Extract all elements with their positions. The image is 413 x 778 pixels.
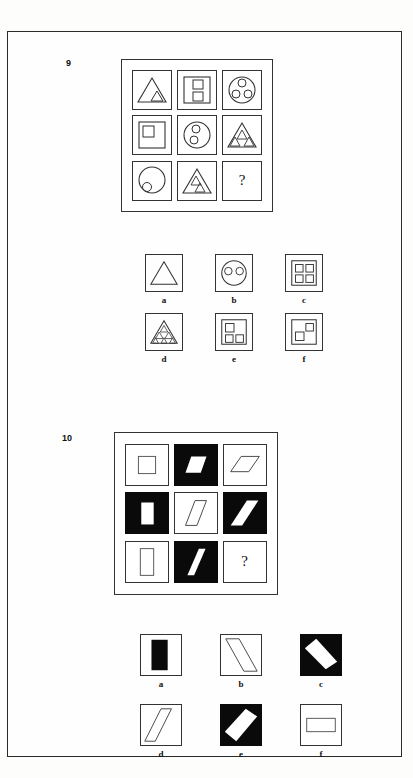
question-mark: ? (241, 553, 248, 570)
matrix-cell-2-1[interactable] (124, 490, 171, 536)
matrix-cell-1-3[interactable] (221, 442, 268, 488)
matrix-cell-3-1[interactable] (131, 160, 173, 202)
square-2-squares-icon (288, 316, 320, 348)
white-diagonal-band-icon (221, 704, 261, 746)
option-f[interactable]: f (269, 313, 339, 364)
puzzle-number: 10 (62, 433, 72, 443)
option-f[interactable]: f (281, 704, 361, 759)
matrix-cell-3-2[interactable] (173, 539, 220, 585)
triangle-many-triangles-icon (148, 316, 180, 348)
option-f-label: f (303, 354, 306, 364)
white-diagonal-parallelogram-icon (224, 492, 266, 534)
circle-with-1-circle-icon (135, 164, 169, 198)
white-parallelogram-icon (175, 444, 217, 486)
option-d[interactable]: d (121, 704, 201, 759)
option-f-label: f (320, 749, 323, 759)
puzzle-10-matrix: ? (114, 432, 278, 595)
diagonal-band-outline-icon (221, 634, 261, 676)
option-b-label: b (238, 679, 243, 689)
matrix-cell-2-2[interactable] (173, 490, 220, 536)
flat-parallelogram-outline-icon (224, 444, 266, 486)
triangle-with-2-triangles-icon (180, 164, 214, 198)
matrix-cell-1-3[interactable] (221, 69, 263, 111)
option-b[interactable]: b (201, 634, 281, 689)
circle-2-circles-icon (218, 257, 250, 289)
option-c[interactable]: c (281, 634, 361, 689)
matrix-cell-2-3[interactable] (221, 114, 263, 156)
triangle-with-3-triangles-icon (225, 118, 259, 152)
square-4-squares-icon (288, 257, 320, 289)
puzzle-9-options-row-1: a b (129, 254, 339, 305)
option-e-label: e (239, 749, 243, 759)
option-e[interactable]: e (199, 313, 269, 364)
question-mark: ? (239, 172, 246, 189)
option-a-label: a (159, 679, 164, 689)
option-a[interactable]: a (129, 254, 199, 305)
option-d-label: d (158, 749, 163, 759)
puzzle-10-options-row-2: d e f (121, 704, 361, 759)
matrix-cell-2-3[interactable] (221, 490, 268, 536)
option-d[interactable]: d (129, 313, 199, 364)
square-with-2-squares-icon (180, 73, 214, 107)
matrix-cell-3-2[interactable] (176, 160, 218, 202)
matrix-cell-1-2[interactable] (176, 69, 218, 111)
white-diagonal-band-icon (301, 634, 341, 676)
circle-with-3-circles-icon (225, 73, 259, 107)
matrix-cell-1-1[interactable] (124, 442, 171, 488)
narrow-diagonal-band-outline-icon (141, 704, 181, 746)
option-c[interactable]: c (269, 254, 339, 305)
circle-with-2-circles-icon (180, 118, 214, 152)
triangle-with-1-triangle-icon (135, 73, 169, 107)
option-a-label: a (162, 295, 167, 305)
parallelogram-outline-icon (175, 492, 217, 534)
page-frame: 9 (7, 31, 402, 757)
puzzle-10-options-row-1: a b c (121, 634, 361, 689)
option-c-label: c (302, 295, 306, 305)
vertical-rectangle-outline-icon (126, 541, 168, 583)
puzzle-9-matrix: ? (121, 59, 273, 212)
square-3-squares-icon (218, 316, 250, 348)
square-with-1-square-icon (135, 118, 169, 152)
matrix-cell-1-2[interactable] (173, 442, 220, 488)
option-e-label: e (232, 354, 236, 364)
horizontal-rectangle-outline-icon (301, 704, 341, 746)
option-e[interactable]: e (201, 704, 281, 759)
white-steep-parallelogram-icon (175, 541, 217, 583)
black-vertical-bar-icon (141, 634, 181, 676)
option-b-label: b (231, 295, 236, 305)
matrix-cell-3-3[interactable]: ? (221, 539, 268, 585)
puzzle-number: 9 (66, 58, 71, 68)
matrix-cell-1-1[interactable] (131, 69, 173, 111)
square-outline-icon (126, 444, 168, 486)
option-c-label: c (319, 679, 323, 689)
matrix-cell-2-2[interactable] (176, 114, 218, 156)
option-a[interactable]: a (121, 634, 201, 689)
matrix-cell-3-3[interactable]: ? (221, 160, 263, 202)
triangle-empty-icon (148, 257, 180, 289)
matrix-cell-2-1[interactable] (131, 114, 173, 156)
white-vertical-rectangle-icon (126, 492, 168, 534)
matrix-cell-3-1[interactable] (124, 539, 171, 585)
option-d-label: d (161, 354, 166, 364)
option-b[interactable]: b (199, 254, 269, 305)
puzzle-9-options-row-2: d e (129, 313, 339, 364)
